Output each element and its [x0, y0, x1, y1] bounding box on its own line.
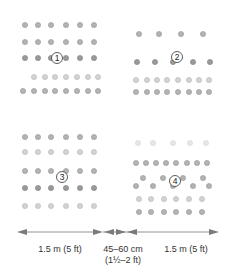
plant-dot: [35, 55, 40, 60]
plant-dot: [63, 149, 68, 154]
bed-number-marker: 2: [172, 52, 183, 63]
plant-dot: [133, 183, 138, 188]
plant-dot: [22, 203, 27, 208]
plant-dot: [48, 39, 53, 44]
plant-dot: [77, 134, 82, 139]
plant-dot: [136, 209, 141, 214]
plant-dot: [91, 39, 96, 44]
measurement-arrows: [17, 229, 219, 235]
plant-dot: [187, 140, 192, 145]
plant-dot: [207, 59, 212, 64]
plant-dot: [35, 22, 40, 27]
plant-dot: [74, 88, 79, 93]
plant-dot: [140, 175, 145, 180]
left-arrowhead-icon: [17, 229, 27, 235]
plant-dot: [48, 22, 53, 27]
plant-dot: [95, 74, 100, 79]
plant-dot: [178, 31, 183, 36]
plant-dot: [173, 196, 178, 201]
plant-dot: [148, 196, 153, 201]
plant-dot: [143, 160, 148, 165]
plant-dot: [196, 77, 201, 82]
right-arrowhead-icon: [209, 229, 219, 235]
plant-dot: [186, 77, 191, 82]
plant-dot: [63, 88, 68, 93]
plant-dot: [35, 185, 40, 190]
plant-dot: [186, 89, 191, 94]
gap-right-arrowhead-icon: [116, 229, 126, 235]
plant-dot: [52, 74, 57, 79]
plant-dot: [150, 183, 155, 188]
plant-dot: [77, 168, 82, 173]
left-gap-arrowhead-icon: [93, 229, 103, 235]
plant-dot: [48, 134, 53, 139]
plant-dot: [190, 59, 195, 64]
plant-dot: [144, 77, 149, 82]
svg-text:2: 2: [175, 52, 180, 62]
plant-dot: [170, 140, 175, 145]
plant-dot: [22, 134, 27, 139]
plant-dot: [91, 149, 96, 154]
plant-dot: [91, 134, 96, 139]
bed-2: 2: [133, 31, 212, 94]
plant-dot: [204, 160, 209, 165]
plant-dot: [35, 39, 40, 44]
plant-dot: [163, 160, 168, 165]
bed-number-marker: 1: [52, 53, 63, 64]
plant-dot: [52, 88, 57, 93]
plant-dot: [77, 203, 82, 208]
plant-dot: [206, 77, 211, 82]
left-width-label: 1.5 m (5 ft): [28, 244, 92, 255]
plant-dot: [136, 196, 141, 201]
plant-dot: [175, 77, 180, 82]
plant-dot: [35, 149, 40, 154]
plant-dot: [134, 59, 139, 64]
plant-dot: [154, 89, 159, 94]
plant-dot: [77, 149, 82, 154]
plant-dot: [206, 89, 211, 94]
plant-dot: [161, 209, 166, 214]
plant-dot: [42, 74, 47, 79]
plant-dot: [63, 55, 68, 60]
plant-dot: [152, 59, 157, 64]
plant-dot: [203, 140, 208, 145]
plant-dot: [77, 185, 82, 190]
plant-dot: [175, 89, 180, 94]
plant-dot: [135, 140, 140, 145]
plant-dot: [35, 203, 40, 208]
plant-dot: [63, 185, 68, 190]
plant-dot: [63, 22, 68, 27]
plant-dot: [164, 89, 169, 94]
plant-dot: [154, 77, 159, 82]
plant-dot: [22, 39, 27, 44]
plant-dot: [206, 183, 211, 188]
plant-dot: [74, 74, 79, 79]
plant-dot: [22, 149, 27, 154]
plant-dot: [199, 196, 204, 201]
plant-dot: [48, 203, 53, 208]
plant-dot: [63, 203, 68, 208]
plant-dot: [63, 134, 68, 139]
bed-3: 3: [22, 134, 96, 208]
plant-dot: [35, 168, 40, 173]
plant-dot: [22, 185, 27, 190]
plant-dot: [63, 39, 68, 44]
plant-dot: [77, 39, 82, 44]
right-gap-arrowhead-icon: [127, 229, 137, 235]
plant-dot: [190, 183, 195, 188]
plant-dot: [148, 209, 153, 214]
plant-dot: [85, 88, 90, 93]
plant-dot: [91, 203, 96, 208]
plant-dot: [200, 175, 205, 180]
plant-dot: [63, 74, 68, 79]
plant-dot: [180, 175, 185, 180]
bed-1: 1: [20, 22, 100, 93]
plant-dot: [200, 31, 205, 36]
plant-dot: [48, 168, 53, 173]
svg-text:4: 4: [173, 176, 178, 186]
plant-dot: [85, 74, 90, 79]
plant-dot: [42, 88, 47, 93]
gap-left-arrowhead-icon: [104, 229, 114, 235]
plant-dot: [133, 160, 138, 165]
plant-dot: [133, 89, 138, 94]
